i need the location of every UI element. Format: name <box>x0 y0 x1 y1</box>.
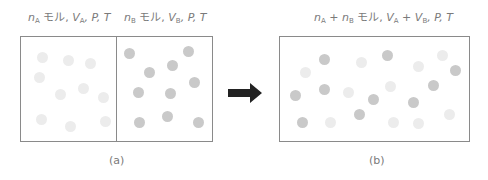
pressure-temperature-text: , P, T <box>181 11 207 24</box>
moles-symbol: n <box>124 11 131 24</box>
moles-a-symbol: n <box>314 11 321 24</box>
gas-a-particle <box>413 118 424 129</box>
gas-b-particle <box>167 60 178 71</box>
gas-a-particle <box>444 109 455 120</box>
gas-b-particle <box>368 94 379 105</box>
gas-a-particle <box>63 55 74 66</box>
gas-a-particle <box>85 58 96 69</box>
gas-b-particle <box>193 117 204 128</box>
gas-b-particle <box>450 65 461 76</box>
gas-a-particle <box>385 81 396 92</box>
volume-symbol: V <box>168 11 176 24</box>
gas-b-particle <box>297 117 308 128</box>
moles-b-symbol: n <box>342 11 349 24</box>
gas-b-particle <box>189 77 200 88</box>
gas-a-particle <box>78 83 89 94</box>
partition-wall <box>116 36 118 142</box>
gas-a-particle <box>65 121 76 132</box>
unit-text: モル, <box>136 11 169 24</box>
gas-b-label: nB モル, VB, P, T <box>124 11 206 28</box>
unit-text: モル, <box>354 11 387 24</box>
gas-a-label: nA モル, VA, P, T <box>28 11 110 28</box>
gas-a-particle <box>98 92 109 103</box>
gas-b-particle <box>183 46 194 57</box>
mixed-gas-label: nA + nB モル, VA + VB, P, T <box>314 11 453 28</box>
plus-sign: + <box>326 11 342 24</box>
volume-a-symbol: V <box>386 11 394 24</box>
gas-a-particle <box>356 57 367 68</box>
gas-a-particle <box>37 52 48 63</box>
gas-a-particle <box>100 116 111 127</box>
gas-a-particle <box>388 117 399 128</box>
plus-sign: + <box>399 11 415 24</box>
gas-a-particle <box>325 117 336 128</box>
gas-b-particle <box>319 54 330 65</box>
gas-a-particle <box>300 67 311 78</box>
gas-b-particle <box>428 80 439 91</box>
gas-b-particle <box>134 117 145 128</box>
gas-a-particle <box>34 72 45 83</box>
caption-b: (b) <box>369 154 385 167</box>
pressure-temperature-text: , P, T <box>85 11 111 24</box>
gas-a-particle <box>413 61 424 72</box>
gas-b-particle <box>165 88 176 99</box>
gas-b-particle <box>162 111 173 122</box>
gas-b-particle <box>124 48 135 59</box>
gas-b-particle <box>133 87 144 98</box>
gas-b-particle <box>354 109 365 120</box>
caption-a: (a) <box>109 154 124 167</box>
gas-b-particle <box>382 50 393 61</box>
gas-b-particle <box>290 90 301 101</box>
gas-a-particle <box>36 114 47 125</box>
right-arrow-icon <box>228 83 264 103</box>
gas-a-particle <box>437 50 448 61</box>
gas-b-particle <box>144 67 155 78</box>
unit-text: モル, <box>40 11 73 24</box>
moles-symbol: n <box>28 11 35 24</box>
gas-a-particle <box>343 87 354 98</box>
pressure-temperature-text: , P, T <box>427 11 453 24</box>
volume-symbol: V <box>72 11 80 24</box>
gas-b-particle <box>408 97 419 108</box>
gas-b-particle <box>319 84 330 95</box>
gas-a-particle <box>55 89 66 100</box>
